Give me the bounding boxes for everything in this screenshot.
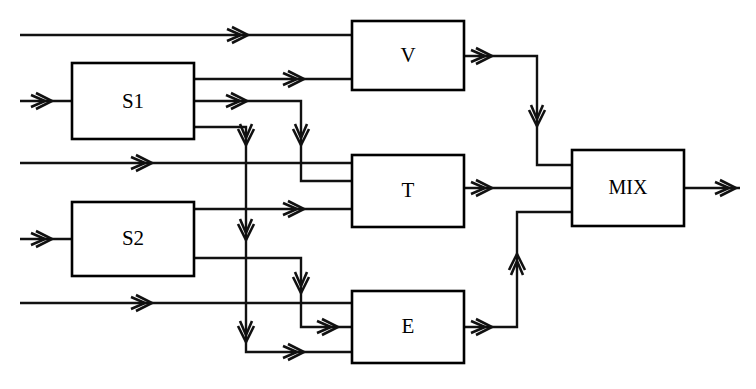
feed-line-s2-inlet xyxy=(20,231,72,247)
block-s1-label: S1 xyxy=(122,89,144,113)
connection-s1-to-t xyxy=(194,93,352,181)
connection-t-to-mix xyxy=(464,180,572,196)
block-t-label: T xyxy=(402,178,415,202)
connection-e-to-mix xyxy=(464,212,572,335)
block-e-label: E xyxy=(402,314,415,338)
block-flow-diagram: S1 S2 V T E MIX xyxy=(0,0,756,389)
block-mix[interactable]: MIX xyxy=(572,150,684,226)
connection-s2-to-e xyxy=(194,258,352,335)
block-s2-label: S2 xyxy=(122,226,144,250)
block-e[interactable]: E xyxy=(352,291,464,363)
mix-product-outlet xyxy=(684,180,740,196)
block-s1[interactable]: S1 xyxy=(72,63,194,139)
flow-diagram-canvas: S1 S2 V T E MIX xyxy=(0,0,756,389)
connection-s1-to-v xyxy=(194,71,352,87)
block-mix-label: MIX xyxy=(609,176,648,198)
feed-line-top xyxy=(20,27,352,43)
connection-s2-to-t xyxy=(194,201,352,217)
connection-v-to-mix xyxy=(464,48,572,165)
block-v[interactable]: V xyxy=(352,21,464,90)
block-v-label: V xyxy=(400,43,415,67)
block-s2[interactable]: S2 xyxy=(72,202,194,276)
block-t[interactable]: T xyxy=(352,155,464,227)
feed-line-s1-inlet xyxy=(20,93,72,109)
